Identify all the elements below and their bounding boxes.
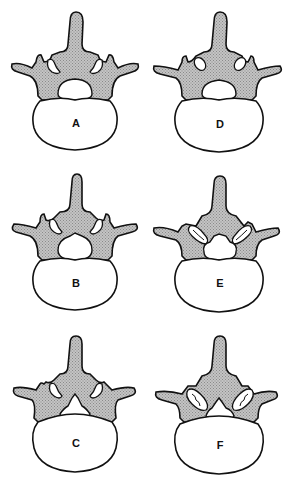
panel-label: C xyxy=(66,437,86,449)
vertebra-e-drawing xyxy=(144,160,288,322)
panel-a: A xyxy=(0,0,144,162)
panel-label: A xyxy=(66,117,86,129)
spinal-canal xyxy=(202,80,236,100)
panel-b: B xyxy=(0,160,144,322)
panel-c: C xyxy=(0,322,144,484)
panel-d: D xyxy=(144,0,288,162)
panel-label: F xyxy=(210,439,230,451)
spinal-canal xyxy=(58,79,92,100)
panel-label: E xyxy=(210,277,230,289)
panel-f: F xyxy=(144,322,288,484)
vertebrae-figure: A B C D xyxy=(0,0,288,487)
vertebra-b-drawing xyxy=(0,160,144,322)
panel-label: B xyxy=(66,277,86,289)
panel-e: E xyxy=(144,160,288,322)
vertebra-f-drawing xyxy=(144,322,288,484)
vertebra-a-drawing xyxy=(0,0,144,162)
panel-label: D xyxy=(210,118,230,130)
vertebra-d-drawing xyxy=(144,0,288,162)
vertebra-c-drawing xyxy=(0,322,144,484)
